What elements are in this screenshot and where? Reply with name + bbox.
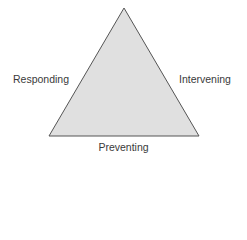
label-intervening: Intervening (179, 73, 231, 85)
label-responding: Responding (13, 73, 69, 85)
label-preventing: Preventing (0, 141, 247, 153)
